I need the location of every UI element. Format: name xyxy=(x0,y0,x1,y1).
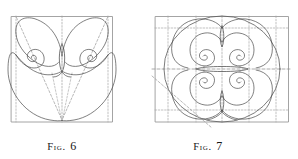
figure-6-caption: Fig. 6 xyxy=(20,136,104,154)
figure-7-caption-number: 7 xyxy=(216,139,222,153)
figure-6-caption-prefix: Fig. xyxy=(47,141,66,152)
figure-6-caption-number: 6 xyxy=(70,139,76,153)
figure-7-caption: Fig. 7 xyxy=(166,136,250,154)
figure-7-caption-prefix: Fig. xyxy=(193,141,212,152)
